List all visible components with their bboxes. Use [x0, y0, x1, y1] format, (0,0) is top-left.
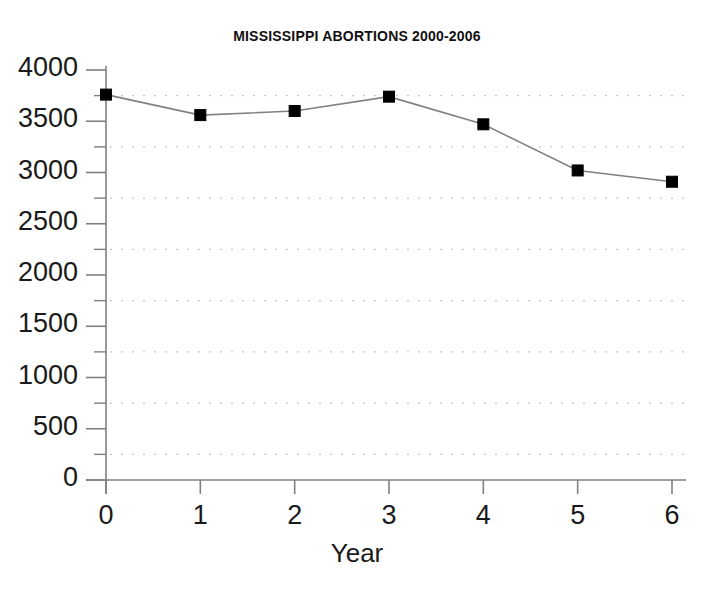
axis-ticks [86, 70, 672, 494]
x-axis-title: Year [0, 538, 714, 569]
data-point-marker [478, 119, 489, 130]
y-axis-tick-label: 1000 [18, 362, 78, 389]
y-axis-tick-label: 2500 [18, 208, 78, 235]
y-axis-tick-label: 2000 [18, 259, 78, 286]
data-point-marker [572, 165, 583, 176]
x-axis-tick-label: 2 [265, 502, 325, 529]
series-line [106, 95, 672, 182]
x-axis-tick-label: 6 [642, 502, 702, 529]
data-series-line [106, 95, 672, 182]
x-axis-tick-label: 3 [359, 502, 419, 529]
line-chart: MISSISSIPPI ABORTIONS 2000-2006 05001000… [0, 0, 714, 595]
data-point-marker [101, 89, 112, 100]
x-axis-tick-label: 0 [76, 502, 136, 529]
x-axis-tick-label: 5 [548, 502, 608, 529]
y-axis-tick-label: 3500 [18, 105, 78, 132]
data-point-marker [195, 110, 206, 121]
x-axis-tick-label: 1 [170, 502, 230, 529]
y-axis-tick-label: 500 [33, 413, 78, 440]
y-axis-tick-label: 0 [63, 464, 78, 491]
x-axis-tick-label: 4 [453, 502, 513, 529]
axis-lines [86, 66, 686, 494]
data-point-marker [384, 91, 395, 102]
data-point-marker [289, 106, 300, 117]
y-axis-tick-label: 3000 [18, 157, 78, 184]
gridlines [110, 96, 686, 455]
y-axis-tick-label: 4000 [18, 54, 78, 81]
data-point-marker [667, 176, 678, 187]
y-axis-tick-label: 1500 [18, 310, 78, 337]
